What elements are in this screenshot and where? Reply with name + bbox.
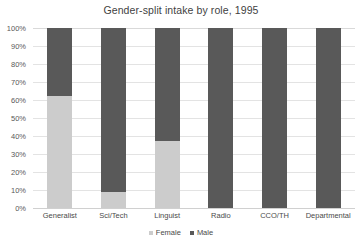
y-tick-label: 0%: [0, 204, 26, 213]
legend-swatch-icon: [149, 231, 153, 235]
bar-segment-female[interactable]: [47, 96, 72, 208]
chart-title: Gender-split intake by role, 1995: [0, 4, 362, 16]
x-tick-label: Departmental: [301, 210, 355, 224]
stacked-bar[interactable]: [316, 28, 341, 208]
bars-layer: [33, 28, 355, 208]
stacked-bar[interactable]: [101, 28, 126, 208]
chart-container: Gender-split intake by role, 1995 Genera…: [0, 0, 362, 248]
x-tick-label: Generalist: [33, 210, 87, 224]
x-axis: GeneralistSci/TechLinguistRadioCCO/THDep…: [33, 210, 355, 224]
bar-slot: [140, 28, 194, 208]
bar-segment-male[interactable]: [155, 28, 180, 141]
bar-segment-female[interactable]: [155, 141, 180, 208]
y-tick-label: 60%: [0, 96, 26, 105]
bar-slot: [87, 28, 141, 208]
bar-segment-male[interactable]: [208, 28, 233, 208]
y-tick-label: 20%: [0, 168, 26, 177]
chart-legend: FemaleMale: [0, 228, 362, 237]
y-tick-label: 80%: [0, 60, 26, 69]
bar-slot: [248, 28, 302, 208]
x-tick-label: Linguist: [140, 210, 194, 224]
y-tick-label: 50%: [0, 114, 26, 123]
x-tick-label: Sci/Tech: [87, 210, 141, 224]
bar-slot: [194, 28, 248, 208]
legend-item[interactable]: Male: [190, 228, 213, 237]
stacked-bar[interactable]: [47, 28, 72, 208]
legend-label: Female: [156, 228, 181, 237]
bar-slot: [301, 28, 355, 208]
plot-area: [33, 28, 355, 208]
y-tick-label: 30%: [0, 150, 26, 159]
bar-slot: [33, 28, 87, 208]
legend-swatch-icon: [190, 231, 194, 235]
y-tick-label: 40%: [0, 132, 26, 141]
stacked-bar[interactable]: [208, 28, 233, 208]
bar-segment-male[interactable]: [47, 28, 72, 96]
x-tick-label: CCO/TH: [248, 210, 302, 224]
bar-segment-male[interactable]: [262, 28, 287, 208]
stacked-bar[interactable]: [155, 28, 180, 208]
legend-item[interactable]: Female: [149, 228, 181, 237]
bar-segment-male[interactable]: [316, 28, 341, 208]
stacked-bar[interactable]: [262, 28, 287, 208]
x-tick-label: Radio: [194, 210, 248, 224]
legend-label: Male: [197, 228, 213, 237]
y-tick-label: 90%: [0, 42, 26, 51]
y-tick-label: 100%: [0, 24, 26, 33]
y-tick-label: 70%: [0, 78, 26, 87]
y-tick-label: 10%: [0, 186, 26, 195]
bar-segment-female[interactable]: [101, 192, 126, 208]
bar-segment-male[interactable]: [101, 28, 126, 192]
gridline: [33, 208, 355, 209]
